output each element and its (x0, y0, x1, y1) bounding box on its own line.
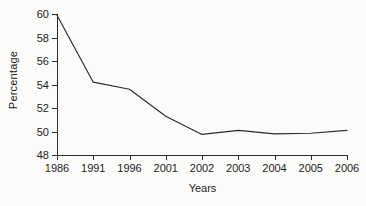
x-axis-tick-label: 2006 (335, 162, 359, 174)
x-axis-tick (275, 155, 276, 160)
y-axis-tick-label: 56 (37, 55, 49, 67)
x-axis-title: Years (57, 182, 348, 194)
x-axis-tick-label: 2001 (154, 162, 178, 174)
x-axis-tick (166, 155, 167, 160)
y-axis-tick-label: 52 (37, 102, 49, 114)
x-axis-tick (93, 155, 94, 160)
plot-area: 48505254565860 1986199119962001200220032… (57, 14, 348, 155)
x-axis-tick-label: 2005 (299, 162, 323, 174)
y-axis-tick-label: 50 (37, 126, 49, 138)
line-series-percentage (57, 14, 348, 155)
series-polyline (57, 15, 347, 134)
y-axis-tick-label: 54 (37, 79, 49, 91)
x-axis-tick-label: 1996 (117, 162, 141, 174)
x-axis-tick-label: 1991 (81, 162, 105, 174)
x-axis-tick (238, 155, 239, 160)
chart-figure: Percentage 48505254565860 19861991199620… (0, 0, 366, 206)
x-axis-tick (347, 155, 348, 160)
x-axis-tick-label: 2003 (226, 162, 250, 174)
x-axis-tick-label: 1986 (45, 162, 69, 174)
x-axis-tick-label: 2004 (262, 162, 286, 174)
x-axis-tick-label: 2002 (190, 162, 214, 174)
x-axis-tick (311, 155, 312, 160)
x-axis-tick (130, 155, 131, 160)
y-axis-tick-label: 58 (37, 32, 49, 44)
y-axis-tick-label: 48 (37, 149, 49, 161)
y-axis-title-text: Percentage (7, 51, 19, 109)
x-axis-tick (202, 155, 203, 160)
x-axis-tick (57, 155, 58, 160)
y-axis-title: Percentage (0, 0, 26, 160)
y-axis-tick-label: 60 (37, 8, 49, 20)
